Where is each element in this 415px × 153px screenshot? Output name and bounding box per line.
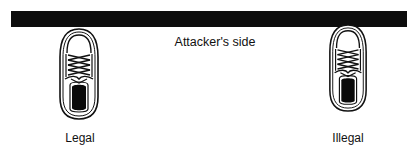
shoe-opening: [70, 82, 88, 112]
legal-caption: Legal: [50, 131, 110, 145]
shoe-opening: [339, 76, 356, 105]
attackers-side-label: Attacker's side: [150, 35, 280, 49]
illegal-caption: Illegal: [318, 131, 378, 145]
shoe-illegal-icon: [327, 21, 369, 115]
shoe-laces: [65, 54, 93, 83]
shoe-legal-icon: [57, 27, 101, 121]
